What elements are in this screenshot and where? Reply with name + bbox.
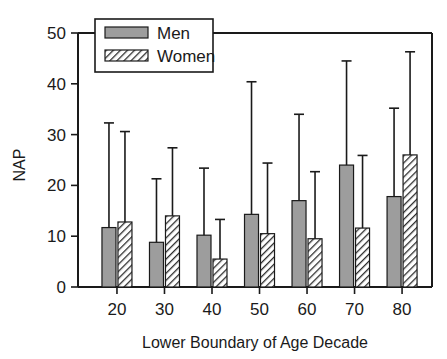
x-tick-label: 30 (155, 300, 174, 319)
chart-container: 01020304050 20304050607080 NAP Lower Bou… (0, 0, 447, 359)
x-tick-label: 20 (108, 300, 127, 319)
bar-men (245, 214, 259, 287)
legend-label-men: Men (157, 24, 190, 43)
y-axis-title: NAP (11, 149, 28, 182)
y-tick-label: 50 (47, 24, 66, 43)
bar-men (292, 201, 306, 287)
bar-men (340, 165, 354, 287)
bar-women (403, 155, 417, 287)
y-tick-label: 40 (47, 75, 66, 94)
legend-label-women: Women (157, 47, 215, 66)
y-axis-ticks: 01020304050 (47, 24, 78, 297)
x-tick-label: 60 (298, 300, 317, 319)
legend: Men Women (95, 19, 215, 72)
bar-men (149, 242, 163, 287)
bar-women (118, 222, 132, 287)
y-tick-label: 30 (47, 126, 66, 145)
bar-men (387, 197, 401, 287)
legend-swatch-women (105, 50, 148, 61)
x-tick-label: 40 (203, 300, 222, 319)
bar-women (261, 234, 275, 287)
bar-men (197, 235, 211, 287)
bar-women (165, 216, 179, 287)
x-axis-ticks: 20304050607080 (108, 287, 412, 319)
bar-women (213, 259, 227, 287)
x-tick-label: 50 (250, 300, 269, 319)
bars-layer (102, 155, 417, 287)
y-tick-label: 20 (47, 176, 66, 195)
bar-women (308, 239, 322, 287)
x-axis-title: Lower Boundary of Age Decade (142, 334, 368, 351)
y-tick-label: 10 (47, 227, 66, 246)
x-tick-label: 80 (393, 300, 412, 319)
y-tick-label: 0 (57, 278, 66, 297)
bar-women (356, 228, 370, 287)
bar-men (102, 228, 116, 287)
legend-swatch-men (105, 27, 148, 38)
bar-chart-with-error-bars: 01020304050 20304050607080 NAP Lower Bou… (0, 0, 447, 359)
x-tick-label: 70 (345, 300, 364, 319)
